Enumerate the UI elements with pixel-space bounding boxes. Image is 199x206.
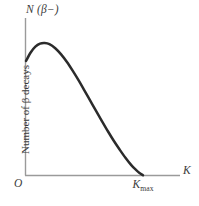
- y-axis-title: Number of β decays: [20, 48, 31, 172]
- kmax-tick-label: Kmax: [133, 179, 154, 193]
- y-axis-symbol-label: N (β−): [26, 4, 59, 16]
- y-axis-symbol-main: N: [26, 3, 34, 15]
- beta-spectrum-curve: [26, 43, 143, 175]
- origin-label: O: [14, 178, 22, 190]
- beta-decay-spectrum-figure: N (β−) Number of β decays O Kmax K: [0, 0, 199, 206]
- kmax-subscript: max: [140, 184, 153, 193]
- y-axis-symbol-arg: (β−): [37, 3, 59, 15]
- x-axis-symbol-label: K: [183, 165, 191, 177]
